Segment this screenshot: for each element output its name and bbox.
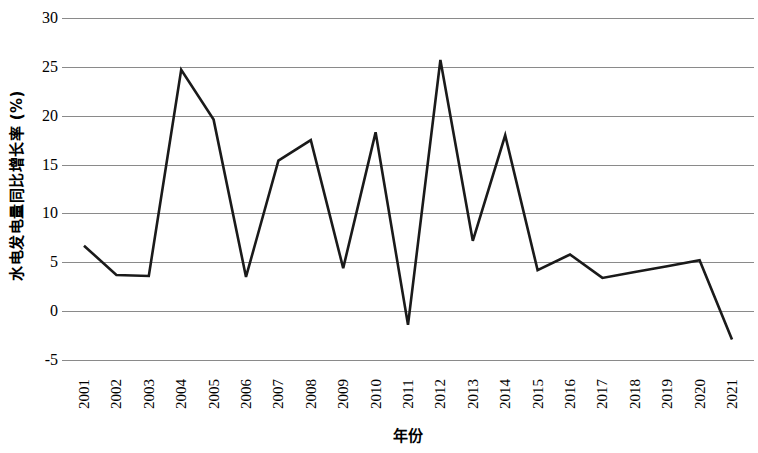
- y-axis-tick-labels: -5051015202530: [26, 0, 58, 370]
- x-tick-label-text: 2007: [270, 379, 286, 409]
- x-tick-label-text: 2016: [562, 379, 578, 409]
- y-tick-label: 10: [26, 205, 58, 221]
- x-tick-label: 2019: [659, 370, 675, 418]
- x-tick-label-text: 2012: [432, 379, 448, 409]
- y-tick-label: 0: [26, 303, 58, 319]
- x-tick-label-text: 2004: [173, 379, 189, 409]
- y-tick-label: 25: [26, 59, 58, 75]
- y-tick-label: 30: [26, 10, 58, 26]
- x-tick-label: 2018: [627, 370, 643, 418]
- x-tick-label-text: 2002: [108, 379, 124, 409]
- x-tick-label: 2010: [368, 370, 384, 418]
- x-tick-label-text: 2001: [76, 379, 92, 409]
- data-series-line: [62, 0, 754, 370]
- x-tick-label-text: 2011: [400, 379, 416, 408]
- x-tick-label: 2008: [303, 370, 319, 418]
- x-tick-label: 2016: [562, 370, 578, 418]
- x-tick-label: 2007: [270, 370, 286, 418]
- x-tick-label-text: 2008: [303, 379, 319, 409]
- x-tick-label: 2002: [108, 370, 124, 418]
- x-tick-label-text: 2009: [335, 379, 351, 409]
- x-axis-tick-labels: 2001200220032004200520062007200820092010…: [62, 370, 754, 418]
- x-tick-label: 2009: [335, 370, 351, 418]
- x-tick-label: 2020: [692, 370, 708, 418]
- x-tick-label-text: 2017: [594, 379, 610, 409]
- y-tick-label: 20: [26, 108, 58, 124]
- x-tick-label-text: 2013: [465, 379, 481, 409]
- x-tick-label: 2005: [206, 370, 222, 418]
- x-tick-label: 2011: [400, 370, 416, 418]
- x-tick-label: 2014: [497, 370, 513, 418]
- x-axis-title: 年份: [62, 424, 754, 445]
- x-tick-label-text: 2020: [692, 379, 708, 409]
- y-axis-title-text: 水电发电量同比增长率 (%): [5, 90, 26, 281]
- y-tick-label: 15: [26, 157, 58, 173]
- y-tick-label: 5: [26, 254, 58, 270]
- x-tick-label-text: 2019: [659, 379, 675, 409]
- plot-area: [62, 0, 754, 370]
- x-tick-label: 2021: [724, 370, 740, 418]
- x-tick-label-text: 2021: [724, 379, 740, 409]
- y-tick-label: -5: [26, 352, 58, 368]
- x-tick-label-text: 2006: [238, 379, 254, 409]
- x-tick-label: 2006: [238, 370, 254, 418]
- x-tick-label: 2013: [465, 370, 481, 418]
- x-tick-label: 2015: [530, 370, 546, 418]
- x-tick-label: 2012: [432, 370, 448, 418]
- x-tick-label: 2003: [141, 370, 157, 418]
- x-tick-label: 2001: [76, 370, 92, 418]
- hydropower-growth-rate-line-chart: 水电发电量同比增长率 (%) -5051015202530 2001200220…: [0, 0, 758, 453]
- x-tick-label-text: 2018: [627, 379, 643, 409]
- x-tick-label-text: 2005: [206, 379, 222, 409]
- x-tick-label-text: 2015: [530, 379, 546, 409]
- x-tick-label-text: 2010: [368, 379, 384, 409]
- x-tick-label-text: 2003: [141, 379, 157, 409]
- x-tick-label-text: 2014: [497, 379, 513, 409]
- x-tick-label: 2017: [594, 370, 610, 418]
- x-tick-label: 2004: [173, 370, 189, 418]
